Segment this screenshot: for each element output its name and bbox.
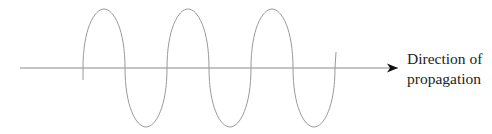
label-line-1: Direction of	[407, 49, 482, 69]
propagation-label: Direction of propagation	[407, 49, 482, 89]
label-line-2: propagation	[407, 69, 482, 89]
